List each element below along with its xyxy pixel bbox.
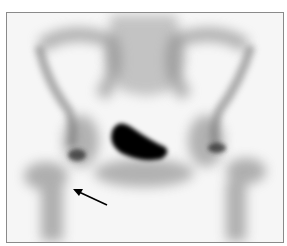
scan-frame [6, 12, 284, 243]
bone-scan-image [7, 13, 283, 242]
